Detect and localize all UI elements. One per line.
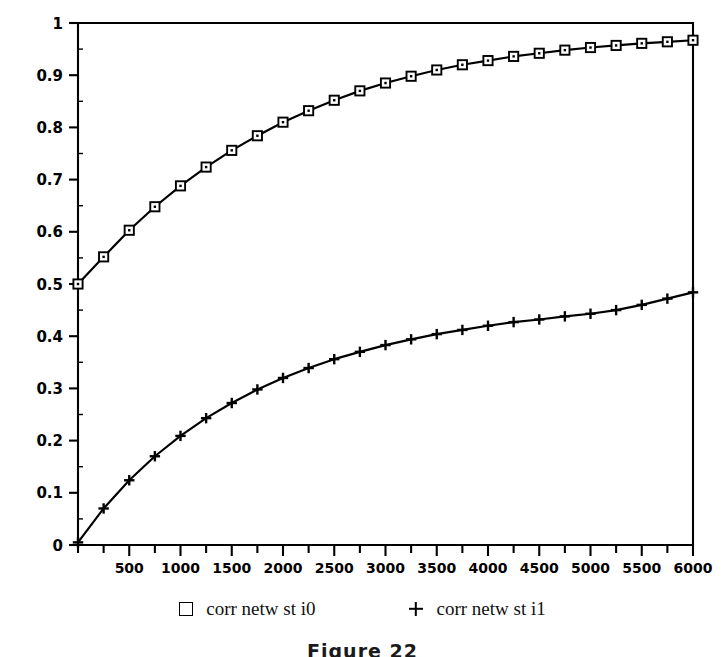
x-axis-tick-label: 500 xyxy=(115,560,144,576)
y-axis-tick-label: 0.1 xyxy=(36,484,63,502)
x-axis-tick-label: 6000 xyxy=(674,560,713,576)
data-point-square-center xyxy=(256,135,258,137)
x-axis-tick-label: 3000 xyxy=(366,560,405,576)
y-axis-tick-label: 0.9 xyxy=(36,67,63,85)
data-point-square-center xyxy=(487,59,489,61)
data-point-square-center xyxy=(615,44,617,46)
x-axis-tick-label: 2500 xyxy=(315,560,354,576)
data-point-square-center xyxy=(307,109,309,111)
data-point-square-center xyxy=(564,49,566,51)
data-point-square-center xyxy=(333,99,335,101)
legend-label-i1: corr netw st i1 xyxy=(437,598,546,620)
series-markers-i1 xyxy=(73,287,698,547)
data-point-square-center xyxy=(666,41,668,43)
x-axis-tick-label: 5000 xyxy=(571,560,610,576)
data-point-square-center xyxy=(231,149,233,151)
series-line-i0 xyxy=(78,40,693,284)
data-point-square-center xyxy=(538,52,540,54)
y-axis-tick-label: 0.2 xyxy=(36,432,63,450)
data-point-square-center xyxy=(410,75,412,77)
data-point-square-center xyxy=(154,206,156,208)
y-axis-tick-label: 0.8 xyxy=(36,119,63,137)
data-point-square-center xyxy=(179,185,181,187)
legend-entry-i0: corr netw st i0 xyxy=(179,598,315,620)
plus-marker-icon xyxy=(408,601,424,617)
data-point-square-center xyxy=(436,69,438,71)
figure-container: 00.10.20.30.40.50.60.70.80.9150010001500… xyxy=(0,0,725,657)
series-line-i1 xyxy=(78,292,693,542)
x-axis-tick-label: 2000 xyxy=(264,560,303,576)
data-point-square-center xyxy=(282,121,284,123)
x-axis-tick-label: 4000 xyxy=(469,560,508,576)
data-point-square-center xyxy=(589,46,591,48)
data-point-square-center xyxy=(359,90,361,92)
x-axis-tick-label: 4500 xyxy=(520,560,559,576)
data-point-square-center xyxy=(205,166,207,168)
legend-label-i0: corr netw st i0 xyxy=(206,598,315,620)
data-point-square-center xyxy=(641,42,643,44)
figure-caption: Figure 22 xyxy=(0,640,725,657)
data-point-square-center xyxy=(512,55,514,57)
y-axis-tick-label: 0.6 xyxy=(36,223,63,241)
y-axis-tick-label: 0 xyxy=(53,537,63,555)
y-axis-tick-label: 0.5 xyxy=(36,276,63,294)
x-axis-tick-label: 1500 xyxy=(212,560,251,576)
data-point-square-center xyxy=(128,229,130,231)
data-point-square-center xyxy=(461,64,463,66)
y-axis-tick-label: 0.7 xyxy=(36,171,63,189)
data-point-square-center xyxy=(77,283,79,285)
legend-entry-i1: corr netw st i1 xyxy=(408,598,546,620)
line-chart: 00.10.20.30.40.50.60.70.80.9150010001500… xyxy=(0,0,725,592)
x-axis-tick-label: 3500 xyxy=(417,560,456,576)
y-axis-tick-label: 0.4 xyxy=(36,328,63,346)
data-point-square-center xyxy=(102,256,104,258)
series-markers-i0 xyxy=(73,36,697,289)
x-axis-tick-label: 5500 xyxy=(622,560,661,576)
axis-frame xyxy=(78,23,693,545)
square-marker-icon xyxy=(179,602,193,616)
chart-legend: corr netw st i0 corr netw st i1 xyxy=(0,592,725,626)
x-axis-tick-label: 1000 xyxy=(161,560,200,576)
data-point-square-center xyxy=(384,82,386,84)
data-point-square-center xyxy=(692,39,694,41)
y-axis-tick-label: 1 xyxy=(53,15,63,33)
y-axis-tick-label: 0.3 xyxy=(36,380,63,398)
